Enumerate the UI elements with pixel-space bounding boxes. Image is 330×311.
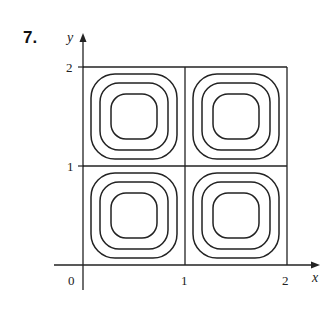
x-tick-0: 0 bbox=[68, 273, 75, 288]
contour-diagram: 7. y x 0 1 2 1 2 bbox=[0, 0, 330, 311]
x-tick-1: 1 bbox=[181, 273, 188, 288]
cell-bottom-left-contours bbox=[91, 173, 177, 258]
x-axis-label: x bbox=[311, 270, 319, 285]
x-axis-arrow-icon bbox=[311, 262, 320, 269]
cell-top-right-contours bbox=[193, 74, 279, 159]
y-axis-arrow-icon bbox=[80, 33, 87, 42]
x-tick-2: 2 bbox=[282, 273, 289, 288]
y-tick-1: 1 bbox=[67, 159, 74, 174]
cell-bottom-right-contours bbox=[193, 173, 279, 258]
problem-number: 7. bbox=[23, 28, 37, 47]
axes bbox=[54, 40, 312, 290]
y-axis-label: y bbox=[65, 30, 74, 45]
y-tick-2: 2 bbox=[66, 60, 73, 75]
cell-top-left-contours bbox=[91, 74, 177, 159]
grid-box bbox=[83, 67, 287, 265]
